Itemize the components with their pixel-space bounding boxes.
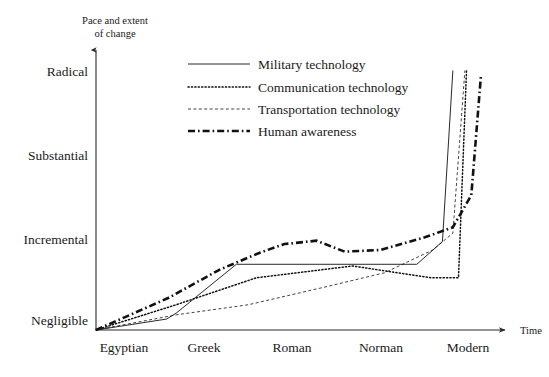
x-tick-label-1: Greek (188, 340, 221, 355)
x-axis-title: Time (520, 325, 542, 336)
y-tick-label-3: Radical (47, 64, 88, 79)
chart-figure: Pace and extent of change Time Negligibl… (0, 0, 549, 377)
chart-canvas: Pace and extent of change Time Negligibl… (0, 0, 549, 377)
chart-legend: Military technology Communication techno… (188, 57, 409, 139)
y-axis-title-line2: of change (94, 28, 135, 39)
legend-label-communication: Communication technology (258, 80, 409, 95)
legend-label-military: Military technology (258, 57, 366, 72)
y-tick-labels: Negligible Incremental Substantial Radic… (24, 64, 89, 328)
y-tick-label-1: Incremental (24, 232, 89, 247)
x-tick-label-3: Norman (359, 340, 403, 355)
x-tick-labels: Egyptian Greek Roman Norman Modern (100, 340, 490, 355)
y-tick-label-0: Negligible (31, 313, 88, 328)
legend-label-awareness: Human awareness (258, 124, 357, 139)
y-axis-title-line1: Pace and extent (82, 15, 148, 26)
x-tick-label-4: Modern (447, 340, 490, 355)
legend-label-transportation: Transportation technology (258, 102, 401, 117)
y-tick-label-2: Substantial (28, 148, 88, 163)
x-tick-label-2: Roman (273, 340, 312, 355)
x-tick-label-0: Egyptian (100, 340, 149, 355)
